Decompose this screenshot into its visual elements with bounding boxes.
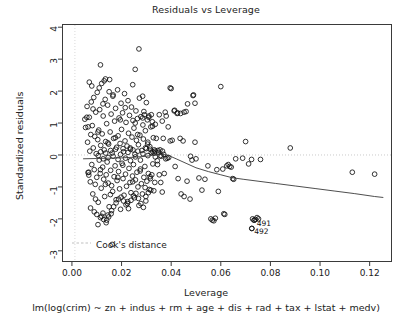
data-point [160, 190, 165, 195]
data-point [90, 192, 95, 197]
x-axis-tick-label: 0.02 [102, 268, 142, 278]
data-point [161, 136, 166, 141]
data-point [88, 206, 93, 211]
data-point [141, 137, 146, 142]
data-point [350, 170, 355, 175]
data-point [98, 143, 103, 148]
data-point [95, 137, 100, 142]
data-point [124, 120, 129, 125]
x-axis-tick-label: 0.10 [300, 268, 340, 278]
data-point [143, 164, 148, 169]
data-point [258, 157, 263, 162]
x-axis-tick-label: 0.08 [250, 268, 290, 278]
data-point [89, 84, 94, 89]
data-point [97, 107, 102, 112]
y-axis-tick-label: 0 [49, 154, 59, 172]
scatter-points [82, 47, 377, 247]
data-point [136, 142, 141, 147]
data-point [126, 150, 131, 155]
data-point [130, 135, 135, 140]
data-point [102, 194, 107, 199]
data-point [104, 121, 109, 126]
data-point [166, 125, 171, 130]
data-point [96, 222, 101, 227]
y-axis-tick-label: -3 [49, 250, 59, 268]
data-point [93, 197, 98, 202]
data-point [118, 141, 123, 146]
data-point [203, 177, 208, 182]
data-point [123, 139, 128, 144]
data-point [128, 158, 133, 163]
y-axis-tick-label: 3 [49, 58, 59, 76]
data-point [122, 91, 127, 96]
data-point [150, 119, 155, 124]
data-point [108, 168, 113, 173]
data-point [139, 181, 144, 186]
data-point [206, 163, 211, 168]
data-point [105, 103, 110, 108]
data-point [193, 140, 198, 145]
data-point [233, 156, 238, 161]
data-point [93, 182, 98, 187]
data-point [103, 97, 108, 102]
y-axis-label: Standardized residuals [14, 92, 25, 200]
data-point [141, 151, 146, 156]
data-point [89, 100, 94, 105]
data-point [218, 84, 223, 89]
data-point [173, 164, 178, 169]
data-point [91, 95, 96, 100]
data-point [185, 179, 190, 184]
data-point [124, 184, 129, 189]
data-point [200, 188, 205, 193]
data-point [120, 110, 125, 115]
data-point [126, 131, 131, 136]
data-point [193, 101, 198, 106]
data-point [105, 160, 110, 165]
data-point [109, 112, 114, 117]
data-point [144, 199, 149, 204]
data-point [98, 63, 103, 68]
data-point [99, 186, 104, 191]
y-axis-tick-label: 1 [49, 122, 59, 140]
data-point [96, 200, 101, 205]
data-point [95, 90, 100, 95]
data-point [119, 127, 124, 132]
data-point [220, 167, 225, 172]
data-point [117, 186, 122, 191]
data-point [142, 109, 147, 114]
data-point [121, 176, 126, 181]
data-point [288, 146, 293, 151]
data-point [89, 162, 94, 167]
data-point [130, 82, 135, 87]
data-point [185, 102, 190, 107]
data-point [197, 176, 202, 181]
x-axis-tick-label: 0.04 [151, 268, 191, 278]
data-point [134, 138, 139, 143]
data-point [249, 157, 254, 162]
data-point [107, 89, 112, 94]
data-point [112, 119, 117, 124]
data-point [85, 104, 90, 109]
data-point [188, 197, 193, 202]
data-point [179, 192, 184, 197]
y-axis-tick-label: -2 [49, 218, 59, 236]
data-point [133, 67, 138, 72]
data-point [129, 190, 134, 195]
data-point [137, 47, 142, 52]
data-point [123, 105, 128, 110]
data-point [101, 114, 106, 119]
data-point [132, 126, 137, 131]
data-point [182, 194, 187, 199]
data-point [127, 166, 132, 171]
data-point [119, 101, 124, 106]
legend-cooks-distance-label: Cook's distance [96, 240, 167, 250]
x-axis-tick-label: 0.12 [350, 268, 390, 278]
data-point [116, 169, 121, 174]
data-point [101, 177, 106, 182]
data-point [121, 146, 126, 151]
data-point [108, 130, 113, 135]
data-point [157, 172, 162, 177]
data-point [92, 167, 97, 172]
data-point [118, 152, 123, 157]
data-point [126, 206, 131, 211]
